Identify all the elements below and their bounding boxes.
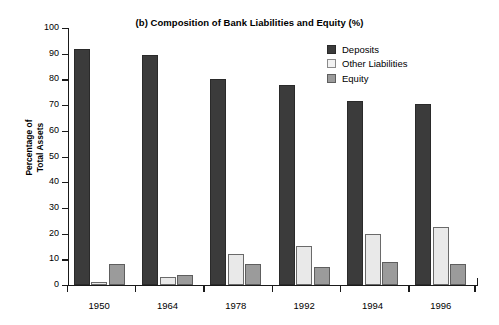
bar-equity-1978 bbox=[245, 264, 261, 285]
bar-deposits-1996 bbox=[415, 104, 431, 285]
chart-title: (b) Composition of Bank Liabilities and … bbox=[0, 17, 499, 28]
bar-other-liabilities-1996 bbox=[433, 227, 449, 285]
y-tick-label: 100 bbox=[44, 22, 59, 32]
bar-group-1992 bbox=[279, 28, 330, 285]
legend-swatch-icon bbox=[327, 45, 336, 54]
y-tick-label: 0 bbox=[54, 279, 59, 289]
y-tick-label: 30 bbox=[49, 202, 59, 212]
legend-item-other-liabilities: Other Liabilities bbox=[327, 57, 407, 72]
y-tick-label: 80 bbox=[49, 73, 59, 83]
bar-deposits-1978 bbox=[210, 79, 226, 285]
y-tick-mark bbox=[62, 28, 68, 29]
x-tick-label-1978: 1978 bbox=[206, 300, 266, 311]
bar-deposits-1994 bbox=[347, 101, 363, 285]
y-tick-mark bbox=[62, 259, 68, 260]
y-tick-label: 20 bbox=[49, 228, 59, 238]
y-tick-mark bbox=[62, 131, 68, 132]
bar-group-1978 bbox=[210, 28, 261, 285]
x-tick-mark bbox=[408, 285, 409, 292]
bar-group-1964 bbox=[142, 28, 193, 285]
bar-other-liabilities-1992 bbox=[296, 246, 312, 285]
bar-group-1950 bbox=[74, 28, 125, 285]
bar-equity-1950 bbox=[109, 264, 125, 285]
y-tick-mark bbox=[62, 182, 68, 183]
x-tick-label-1996: 1996 bbox=[411, 300, 471, 311]
legend-label: Equity bbox=[342, 73, 368, 84]
y-tick-label: 50 bbox=[49, 151, 59, 161]
y-axis-title: Percentage of Total Assets bbox=[24, 93, 45, 203]
y-tick-mark bbox=[62, 157, 68, 158]
x-tick-mark bbox=[474, 285, 475, 292]
x-tick-label-1992: 1992 bbox=[274, 300, 334, 311]
y-tick-mark bbox=[62, 208, 68, 209]
bar-deposits-1992 bbox=[279, 85, 295, 285]
y-axis-title-line2: Total Assets bbox=[34, 93, 45, 203]
x-tick-label-1994: 1994 bbox=[343, 300, 403, 311]
chart-figure: (b) Composition of Bank Liabilities and … bbox=[0, 0, 499, 325]
x-tick-label-1964: 1964 bbox=[138, 300, 198, 311]
bar-equity-1994 bbox=[382, 262, 398, 285]
x-tick-mark bbox=[135, 285, 136, 292]
legend-label: Other Liabilities bbox=[342, 58, 407, 69]
legend-swatch-icon bbox=[327, 74, 336, 83]
bar-equity-1964 bbox=[177, 275, 193, 285]
plot-area: 0102030405060708090100 19501964197819921… bbox=[68, 28, 478, 285]
y-tick-mark bbox=[62, 54, 68, 55]
bar-other-liabilities-1978 bbox=[228, 254, 244, 285]
y-tick-label: 70 bbox=[49, 99, 59, 109]
y-tick-label: 60 bbox=[49, 125, 59, 135]
x-tick-label-1950: 1950 bbox=[69, 300, 129, 311]
x-tick-mark bbox=[272, 285, 273, 292]
x-tick-mark bbox=[67, 285, 68, 292]
legend-item-deposits: Deposits bbox=[327, 42, 407, 57]
y-tick-mark bbox=[62, 105, 68, 106]
chart-legend: DepositsOther LiabilitiesEquity bbox=[327, 42, 407, 86]
y-tick-mark bbox=[62, 79, 68, 80]
bar-other-liabilities-1950 bbox=[91, 282, 107, 285]
bar-other-liabilities-1994 bbox=[365, 234, 381, 285]
y-axis-title-line1: Percentage of bbox=[24, 93, 35, 203]
bar-group-1996 bbox=[415, 28, 466, 285]
x-tick-mark bbox=[340, 285, 341, 292]
bar-equity-1992 bbox=[314, 267, 330, 285]
y-tick-label: 10 bbox=[49, 253, 59, 263]
y-tick-mark bbox=[62, 234, 68, 235]
bar-other-liabilities-1964 bbox=[160, 277, 176, 285]
y-tick-label: 40 bbox=[49, 176, 59, 186]
bar-deposits-1964 bbox=[142, 55, 158, 285]
bar-deposits-1950 bbox=[74, 49, 90, 285]
legend-label: Deposits bbox=[342, 44, 379, 55]
y-tick-label: 90 bbox=[49, 48, 59, 58]
legend-swatch-icon bbox=[327, 59, 336, 68]
bar-equity-1996 bbox=[450, 264, 466, 285]
x-tick-mark bbox=[203, 285, 204, 292]
legend-item-equity: Equity bbox=[327, 71, 407, 86]
